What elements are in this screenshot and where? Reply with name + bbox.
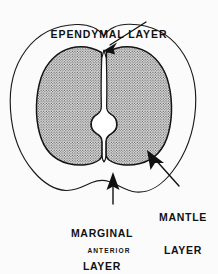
mantle-layer-label-line1: MANTLE: [150, 212, 216, 223]
marginal-layer-label-line2: LAYER: [54, 261, 150, 272]
anterior-orientation-label: ANTERIOR: [59, 234, 159, 262]
ependymal-layer-label: EPENDYMAL LAYER: [0, 7, 218, 51]
anterior-orientation-label-line1: ANTERIOR: [59, 248, 159, 255]
mantle-layer-label: MANTLE LAYER: [150, 190, 216, 267]
ependymal-layer-label-line1: EPENDYMAL LAYER: [0, 29, 218, 40]
mantle-layer-label-line2: LAYER: [150, 245, 216, 256]
